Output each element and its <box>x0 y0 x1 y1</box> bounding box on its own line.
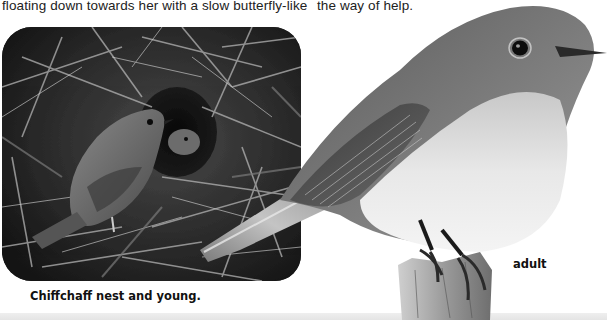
adult-bird-photo <box>180 0 607 320</box>
adult-bird-image <box>180 0 607 320</box>
nest-photo-caption: Chiffchaff nest and young. <box>30 289 201 303</box>
adult-photo-caption: adult <box>513 257 547 271</box>
